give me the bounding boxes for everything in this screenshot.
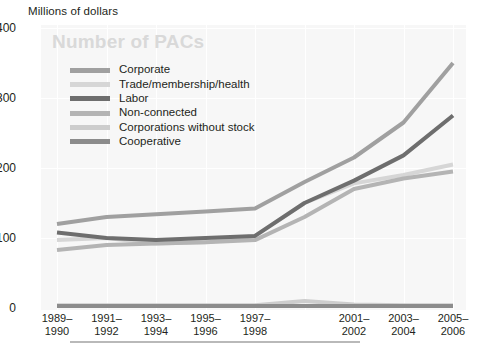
y-axis-tick-label: 100 bbox=[0, 232, 16, 244]
legend-item-label: Labor bbox=[119, 93, 148, 105]
legend-item: Non-connected bbox=[70, 106, 255, 120]
legend-item: Labor bbox=[70, 92, 255, 106]
legend-item-label: Trade/membership/health bbox=[119, 79, 250, 91]
horizontal-gridline bbox=[41, 238, 466, 239]
vertical-gridline bbox=[404, 25, 405, 310]
chart-watermark-title: Number of PACs bbox=[52, 31, 204, 53]
legend-swatch-icon bbox=[70, 139, 110, 144]
y-axis-unit-label: Millions of dollars bbox=[28, 5, 118, 17]
vertical-gridline bbox=[57, 25, 58, 310]
legend-swatch-icon bbox=[70, 111, 110, 116]
vertical-gridline bbox=[453, 25, 454, 310]
legend-item: Cooperative bbox=[70, 134, 255, 148]
chart-root: Millions of dollars Number of PACs Corpo… bbox=[0, 0, 478, 345]
x-axis-tick-label: 2003– 2004 bbox=[379, 312, 429, 337]
legend-item: Corporate bbox=[70, 63, 255, 77]
x-axis-tick-label: 1989– 1990 bbox=[32, 312, 82, 337]
vertical-gridline bbox=[305, 25, 306, 310]
x-axis-tick-label: 1991– 1992 bbox=[82, 312, 132, 337]
bottom-rule-divider bbox=[70, 341, 360, 343]
x-axis-tick-label: 2001– 2002 bbox=[329, 312, 379, 337]
horizontal-gridline bbox=[41, 28, 466, 29]
vertical-gridline bbox=[255, 25, 256, 310]
legend-item: Trade/membership/health bbox=[70, 77, 255, 91]
x-axis-tick-label: 1997– 1998 bbox=[230, 312, 280, 337]
legend-swatch-icon bbox=[70, 125, 110, 130]
y-axis-tick-label: 200 bbox=[0, 162, 16, 174]
legend-swatch-icon bbox=[70, 82, 110, 87]
y-axis-tick-label: 300 bbox=[0, 92, 16, 104]
legend-swatch-icon bbox=[70, 96, 110, 101]
legend-item-label: Corporate bbox=[119, 64, 170, 76]
vertical-gridline bbox=[354, 25, 355, 310]
horizontal-gridline bbox=[41, 168, 466, 169]
x-axis-tick-label: 1993– 1994 bbox=[131, 312, 181, 337]
legend-item-label: Cooperative bbox=[119, 136, 181, 148]
y-axis-tick-label: 400 bbox=[0, 22, 16, 34]
y-axis-tick-label: 0 bbox=[0, 302, 16, 314]
x-axis-tick-label: 1995– 1996 bbox=[181, 312, 231, 337]
x-axis-tick-label: 2005– 2006 bbox=[428, 312, 478, 337]
legend-item: Corporations without stock bbox=[70, 120, 255, 134]
legend-item-label: Non-connected bbox=[119, 107, 197, 119]
legend-swatch-icon bbox=[70, 68, 110, 73]
chart-legend: CorporateTrade/membership/healthLaborNon… bbox=[70, 63, 255, 149]
legend-item-label: Corporations without stock bbox=[119, 122, 255, 134]
